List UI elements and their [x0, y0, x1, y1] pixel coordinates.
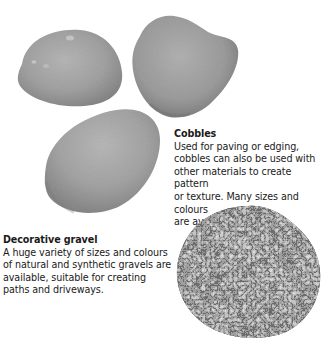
gravel-pile-photo	[170, 200, 326, 342]
gravel-caption: Decorative gravel A huge variety of size…	[3, 234, 175, 297]
cobbles-title: Cobbles	[174, 128, 326, 141]
gravel-description: A huge variety of sizes and colours of n…	[3, 247, 175, 297]
cobble-stone-left	[18, 30, 122, 107]
cobble-stone-right	[132, 16, 238, 118]
gravel-pile	[177, 206, 320, 338]
gravel-title: Decorative gravel	[3, 234, 175, 247]
cobble-stone-bottom	[45, 109, 160, 213]
